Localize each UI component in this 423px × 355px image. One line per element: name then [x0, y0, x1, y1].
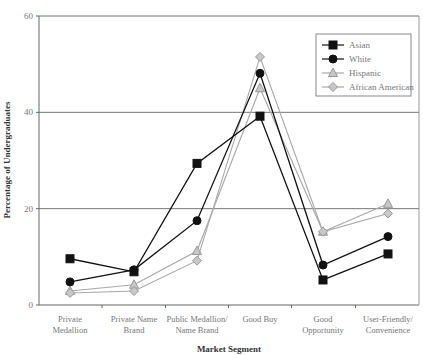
svg-text:White: White — [349, 54, 371, 64]
svg-text:Asian: Asian — [349, 40, 370, 50]
svg-text:African American: African American — [349, 82, 414, 92]
svg-text:Hispanic: Hispanic — [349, 68, 381, 78]
y-axis-title: Percentage of Undergraduates — [2, 101, 12, 218]
y-tick-label: 20 — [24, 204, 34, 214]
x-tick-label: GoodOpportunity — [302, 314, 344, 335]
x-tick-label: PrivateMedallion — [53, 314, 89, 335]
y-tick-label: 40 — [24, 107, 34, 117]
y-tick-label: 60 — [24, 11, 34, 21]
x-tick-label: Private NameBrand — [111, 314, 158, 335]
x-axis-ticks: PrivateMedallionPrivate NameBrandPublic … — [53, 305, 414, 335]
x-tick-label: Public Medallion/Name Brand — [166, 314, 228, 335]
series-asian — [66, 112, 392, 284]
x-tick-label: Good Buy — [242, 314, 278, 324]
series-white — [66, 69, 392, 286]
legend: AsianWhiteHispanicAfrican American — [316, 34, 414, 96]
line-chart: 0204060 PrivateMedallionPrivate NameBran… — [0, 0, 423, 355]
y-axis-ticks: 0204060 — [24, 11, 39, 310]
x-tick-label: User-Friendly/Convenience — [363, 314, 414, 335]
series-hispanic — [66, 83, 393, 294]
x-axis-title: Market Segment — [197, 344, 261, 354]
y-tick-label: 0 — [29, 300, 34, 310]
